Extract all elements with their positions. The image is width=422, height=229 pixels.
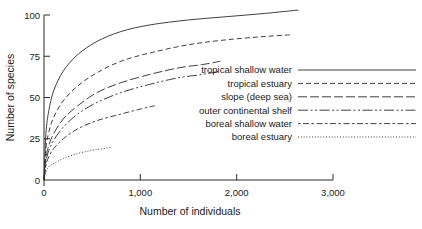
y-tick-label-0: 0 xyxy=(35,175,40,186)
y-axis-title: Number of species xyxy=(4,54,16,142)
curve-outer-continental-shelf xyxy=(44,71,220,180)
y-tick-label-75: 75 xyxy=(29,51,40,62)
legend-label-tropical-estuary: tropical estuary xyxy=(228,78,293,89)
legend-label-boreal-estuary: boreal estuary xyxy=(232,131,292,142)
legend-label-boreal-shallow-water: boreal shallow water xyxy=(205,118,292,129)
x-axis-title: Number of individuals xyxy=(140,205,241,217)
legend-label-slope-deep-sea-: slope (deep sea) xyxy=(221,91,292,102)
chart-canvas: 100 75 50 25 0 0 1,000 2,000 3,000 Numbe… xyxy=(0,0,422,229)
y-tick-label-50: 50 xyxy=(29,92,40,103)
legend-label-outer-continental-shelf: outer continental shelf xyxy=(199,105,292,116)
x-tick-label-0: 0 xyxy=(41,187,46,198)
y-tick-label-25: 25 xyxy=(29,133,40,144)
y-tick-label-100: 100 xyxy=(24,10,40,21)
x-tick-label-1000: 1,000 xyxy=(128,187,152,198)
species-accumulation-chart: 100 75 50 25 0 0 1,000 2,000 3,000 Numbe… xyxy=(0,0,422,229)
x-tick-label-2000: 2,000 xyxy=(225,187,249,198)
curve-boreal-shallow-water xyxy=(44,106,155,180)
curve-boreal-estuary xyxy=(44,147,111,180)
x-tick-label-3000: 3,000 xyxy=(321,187,345,198)
legend-label-tropical-shallow-water: tropical shallow water xyxy=(201,64,292,75)
chart-legend: tropical shallow watertropical estuarysl… xyxy=(199,64,416,142)
